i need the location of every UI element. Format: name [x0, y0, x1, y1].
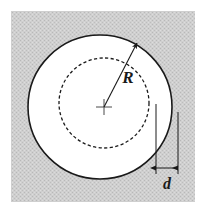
circle-offset-diagram: R d: [0, 0, 204, 215]
radius-label: R: [121, 68, 133, 87]
figure-container: R d: [0, 0, 204, 215]
offset-label: d: [163, 175, 172, 192]
